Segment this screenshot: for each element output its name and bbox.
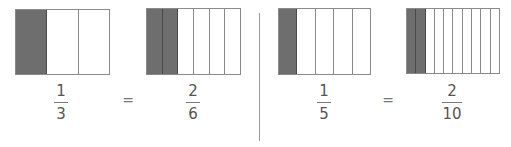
empty-segment (178, 9, 194, 74)
shaded-segment (16, 10, 47, 74)
numerator: 2 (432, 83, 472, 101)
shaded-segment (416, 9, 425, 73)
fraction-line (317, 102, 331, 103)
fraction-bar-2-6 (146, 8, 241, 75)
fraction-1-3: 1 3 (41, 83, 81, 122)
fraction-bar-2-10 (406, 8, 500, 74)
fraction-1-5: 1 5 (304, 83, 344, 122)
empty-segment (47, 10, 78, 74)
numerator: 2 (173, 83, 213, 101)
equals-sign: = (378, 92, 398, 108)
shaded-segment (147, 9, 163, 74)
empty-segment (225, 9, 240, 74)
fraction-2-6: 2 6 (173, 83, 213, 122)
equals-sign: = (118, 92, 138, 108)
numerator: 1 (304, 83, 344, 101)
empty-segment (334, 9, 352, 74)
panel-divider (259, 13, 260, 141)
fraction-line (442, 102, 462, 103)
empty-segment (435, 9, 444, 73)
fraction-2-10: 2 10 (432, 83, 472, 122)
numerator: 1 (41, 83, 81, 101)
empty-segment (463, 9, 472, 73)
empty-segment (426, 9, 435, 73)
empty-segment (194, 9, 210, 74)
empty-segment (453, 9, 462, 73)
empty-segment (353, 9, 370, 74)
empty-segment (444, 9, 453, 73)
empty-segment (491, 9, 499, 73)
empty-segment (297, 9, 315, 74)
shaded-segment (163, 9, 179, 74)
empty-segment (481, 9, 490, 73)
fraction-line (54, 102, 68, 103)
empty-segment (316, 9, 334, 74)
denominator: 5 (304, 106, 344, 122)
empty-segment (472, 9, 481, 73)
denominator: 3 (41, 106, 81, 122)
denominator: 10 (432, 106, 472, 122)
fraction-bar-1-3 (15, 9, 110, 75)
fraction-line (186, 102, 200, 103)
empty-segment (79, 10, 109, 74)
shaded-segment (279, 9, 297, 74)
fraction-bar-1-5 (278, 8, 371, 75)
empty-segment (210, 9, 226, 74)
shaded-segment (407, 9, 416, 73)
denominator: 6 (173, 106, 213, 122)
